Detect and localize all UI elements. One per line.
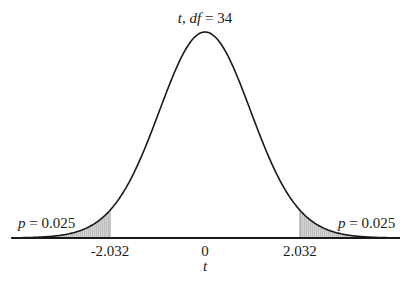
x-tick-label-zero: 0 xyxy=(201,243,209,259)
left-p-value: = 0.025 xyxy=(26,215,76,231)
x-axis-label: t xyxy=(203,258,208,274)
right-p-annotation: p = 0.025 xyxy=(337,215,395,231)
title-df-value: 34 xyxy=(217,10,233,26)
x-tick-label-pos: 2.032 xyxy=(283,243,317,259)
density-curve xyxy=(11,32,399,238)
title-sep: , xyxy=(182,10,190,26)
chart-title: t, df = 34 xyxy=(178,10,233,26)
left-p-annotation: p = 0.025 xyxy=(17,215,75,231)
t-distribution-chart: t, df = 34 p = 0.025 p = 0.025 -2.032 0 … xyxy=(0,0,414,287)
x-tick-label-neg: -2.032 xyxy=(91,243,130,259)
right-p-value: = 0.025 xyxy=(346,215,396,231)
title-eq: = xyxy=(201,10,217,26)
